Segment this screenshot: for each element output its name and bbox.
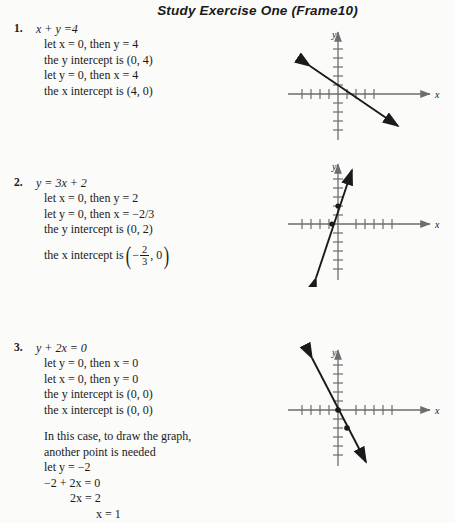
problem-2-x-intercept-prefix: the x intercept is <box>44 248 124 264</box>
problem-2-step-1: let x = 0, then y = 2 <box>44 191 229 207</box>
problem-3-step-3: the y intercept is (0, 0) <box>44 387 229 403</box>
problem-1-step-1: let x = 0, then y = 4 <box>44 37 229 53</box>
point-x-intercept <box>329 221 334 226</box>
graph-problem-3: y x <box>268 338 455 468</box>
fraction-numerator: 2 <box>140 244 149 255</box>
problem-3-explanation: In this case, to draw the graph, another… <box>44 429 229 522</box>
problem-2-step-3: the y intercept is (0, 2) <box>44 222 229 238</box>
problem-3-note-5: 2x = 2 <box>44 491 229 507</box>
problem-3-number: 3. <box>14 341 23 353</box>
y-axis-label: y <box>331 29 337 40</box>
problem-2: 2. y = 3x + 2 let x = 0, then y = 2 let … <box>14 176 229 269</box>
fraction-two-thirds: 2 3 <box>140 244 149 267</box>
graph-1-canvas: y x <box>268 22 455 152</box>
problem-3: 3. y + 2x = 0 let y = 0, then x = 0 let … <box>14 341 229 522</box>
plotted-line <box>310 66 398 126</box>
problem-3-note-4: −2 + 2x = 0 <box>44 476 229 492</box>
graph-3-canvas: y x <box>268 338 455 473</box>
point-y-intercept <box>335 203 340 208</box>
fraction-sign: − <box>132 248 139 264</box>
problem-1-step-2: the y intercept is (0, 4) <box>44 53 229 69</box>
problem-1: 1. x + y =4 let x = 0, then y = 4 the y … <box>14 22 229 99</box>
problem-3-steps: let y = 0, then x = 0 let x = 0, then y … <box>44 356 229 418</box>
x-axis-label: x <box>434 89 440 100</box>
x-axis-label: x <box>434 405 440 416</box>
worksheet-page: Study Exercise One (Frame10) 1. x + y =4… <box>0 0 455 523</box>
point-origin <box>335 407 341 413</box>
x-axis-label: x <box>434 219 440 230</box>
problem-1-step-4: the x intercept is (4, 0) <box>44 84 229 100</box>
problem-2-equation: y = 3x + 2 <box>36 176 229 191</box>
y-axis-label: y <box>331 347 337 358</box>
open-paren: ( <box>125 243 130 269</box>
fraction-second-coord: , 0 <box>150 248 162 264</box>
graph-2-canvas: y x <box>268 152 455 287</box>
problem-3-note-3: let y = −2 <box>44 460 229 476</box>
page-title: Study Exercise One (Frame10) <box>0 3 455 18</box>
problem-1-step-3: let y = 0, then x = 4 <box>44 68 229 84</box>
problem-1-steps: let x = 0, then y = 4 the y intercept is… <box>44 37 229 99</box>
fraction-denominator: 3 <box>140 255 149 267</box>
problem-3-note-6: x = 1 <box>44 507 229 523</box>
problem-2-x-intercept: the x intercept is ( − 2 3 , 0 ) <box>44 243 171 269</box>
graph-problem-2: y x <box>268 152 455 282</box>
problem-1-equation: x + y =4 <box>36 22 229 37</box>
close-paren: ) <box>164 243 169 269</box>
problem-3-note-1: In this case, to draw the graph, <box>44 429 229 445</box>
problem-2-steps: let x = 0, then y = 2 let y = 0, then x … <box>44 191 229 269</box>
problem-2-number: 2. <box>14 176 23 188</box>
problem-3-equation: y + 2x = 0 <box>36 341 229 356</box>
point-extra <box>344 425 350 431</box>
graph-problem-1: y x <box>268 22 455 152</box>
problem-3-step-1: let y = 0, then x = 0 <box>44 356 229 372</box>
problem-3-note-2: another point is needed <box>44 445 229 461</box>
y-axis-label: y <box>331 161 337 172</box>
problem-3-step-4: the x intercept is (0, 0) <box>44 403 229 419</box>
problem-1-number: 1. <box>14 22 23 34</box>
problem-3-step-2: let x = 0, then y = 0 <box>44 372 229 388</box>
problem-2-step-2: let y = 0, then x = −2/3 <box>44 207 229 223</box>
